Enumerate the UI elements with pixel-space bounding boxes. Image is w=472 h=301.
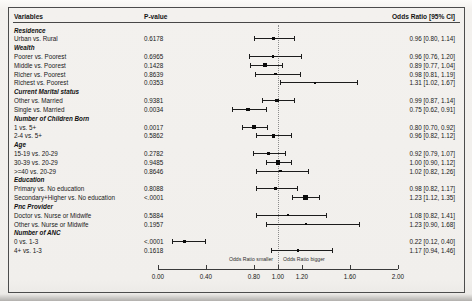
ci-cap-left <box>242 125 243 130</box>
column-header-odds-ratio: Odds Ratio [95% CI] <box>392 12 455 22</box>
or-marker <box>252 125 257 130</box>
row-pvalue: 0.5862 <box>144 131 163 140</box>
group-label: Residence <box>14 26 46 35</box>
ci-cap-right <box>326 213 327 218</box>
ci-cap-right <box>285 151 286 156</box>
or-marker <box>276 160 281 165</box>
row-pvalue: <.0001 <box>144 237 163 246</box>
row-or-ci: 0.75 [0.62, 0.91] <box>409 105 455 114</box>
group-label: Pnc Provider <box>14 202 53 211</box>
ci-cap-right <box>291 160 292 165</box>
axis-tick-label: 0.80 <box>241 273 267 280</box>
or-marker <box>303 195 307 199</box>
ci-cap-right <box>301 54 302 59</box>
axis-tick-label: 1.60 <box>337 273 363 280</box>
row-pvalue: 0.2782 <box>144 149 163 158</box>
row-pvalue: 0.1618 <box>144 246 163 255</box>
row-pvalue: 0.0017 <box>144 123 163 132</box>
ci-cap-right <box>282 63 283 68</box>
reference-line <box>278 25 279 269</box>
row-or-ci: 0.80 [0.70, 0.92] <box>409 123 455 132</box>
ci-cap-left <box>262 98 263 103</box>
ci-cap-left <box>292 195 293 200</box>
ci-cap-right <box>319 195 320 200</box>
row-or-ci: 0.22 [0.12, 0.40] <box>409 237 455 246</box>
row-label: 30-39 vs. 20-29 <box>14 158 58 167</box>
ci-cap-left <box>255 72 256 77</box>
row-label: Poorer vs. Poorest <box>14 52 66 61</box>
forest-plot-figure: Variables P-value Odds Ratio [95% CI] Re… <box>0 0 472 301</box>
or-marker <box>263 63 267 67</box>
row-pvalue: 0.5884 <box>144 211 163 220</box>
or-marker <box>274 73 277 76</box>
axis-tick-label: 0.00 <box>145 273 171 280</box>
ci-cap-right <box>308 169 309 174</box>
axis-tick <box>398 265 399 269</box>
row-or-ci: 0.98 [0.81, 1.19] <box>409 70 455 79</box>
row-or-ci: 0.89 [0.77, 1.04] <box>409 61 455 70</box>
group-label: Age <box>14 140 26 149</box>
or-marker <box>274 187 277 190</box>
ci-cap-right <box>300 72 301 77</box>
row-label: 4+ vs. 1-3 <box>14 246 42 255</box>
row-label: Secondary+Higher vs. No education <box>14 193 115 202</box>
ci-line <box>280 82 358 83</box>
row-label: 2-4 vs. 5+ <box>14 131 42 140</box>
row-label: Richer vs. Poorest <box>14 70 65 79</box>
row-pvalue: 0.6965 <box>144 52 163 61</box>
or-marker <box>297 249 299 251</box>
row-pvalue: 0.1428 <box>144 61 163 70</box>
ci-cap-left <box>254 36 255 41</box>
group-label: Current Marital status <box>14 87 79 96</box>
axis-tick-label: 1.20 <box>289 273 315 280</box>
ci-line <box>172 241 206 242</box>
row-pvalue: 0.0034 <box>144 105 163 114</box>
page-bottom-shadow <box>0 294 472 301</box>
row-pvalue: 0.8646 <box>144 167 163 176</box>
row-label: 15-19 vs. 20-29 <box>14 149 58 158</box>
or-marker <box>279 170 281 172</box>
ci-cap-right <box>294 36 295 41</box>
ci-cap-left <box>266 160 267 165</box>
or-marker <box>272 134 275 137</box>
ci-cap-left <box>256 133 257 138</box>
group-label: Education <box>14 175 44 184</box>
row-label: Urban vs. Rural <box>14 34 58 43</box>
axis-tick <box>254 265 255 269</box>
ci-line <box>256 215 327 216</box>
row-label: Middle vs. Poorest <box>14 61 66 70</box>
ci-cap-left <box>256 186 257 191</box>
ci-cap-left <box>266 222 267 227</box>
row-label: Doctor vs. Nurse or Midwife <box>14 211 91 220</box>
row-or-ci: 1.23 [1.12, 1.35] <box>409 193 455 202</box>
ci-line <box>271 250 333 251</box>
row-or-ci: 1.00 [0.90, 1.12] <box>409 158 455 167</box>
row-or-ci: 0.96 [0.82, 1.12] <box>409 131 455 140</box>
ci-cap-right <box>332 248 333 253</box>
ci-cap-right <box>205 239 206 244</box>
row-or-ci: 1.02 [0.82, 1.26] <box>409 167 455 176</box>
ci-cap-right <box>267 125 268 130</box>
row-pvalue: 0.9485 <box>144 158 163 167</box>
row-label: Single vs. Married <box>14 105 64 114</box>
or-marker <box>275 99 279 103</box>
ci-cap-right <box>266 107 267 112</box>
ci-cap-right <box>294 98 295 103</box>
row-pvalue: 0.9381 <box>144 96 163 105</box>
ci-cap-left <box>249 54 250 59</box>
or-marker <box>267 152 271 156</box>
ci-cap-right <box>359 222 360 227</box>
ref-label-smaller: Odds Ratio smaller <box>229 256 273 263</box>
row-or-ci: 1.08 [0.82, 1.41] <box>409 211 455 220</box>
row-pvalue: <.0001 <box>144 193 163 202</box>
ci-cap-left <box>232 107 233 112</box>
axis-line <box>158 269 398 270</box>
ci-line <box>266 224 360 225</box>
ci-cap-left <box>250 63 251 68</box>
ci-cap-left <box>256 213 257 218</box>
row-or-ci: 0.99 [0.87, 1.14] <box>409 96 455 105</box>
row-pvalue: 0.8088 <box>144 184 163 193</box>
header-divider <box>13 22 460 23</box>
ci-cap-right <box>357 80 358 85</box>
row-label: 1 vs. 5+ <box>14 123 36 132</box>
